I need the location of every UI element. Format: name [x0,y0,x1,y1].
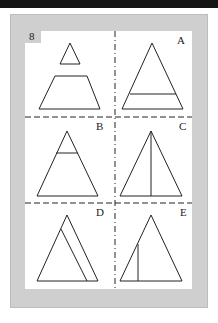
option-a-triangle [122,43,183,109]
option-c-label[interactable]: C [179,120,186,132]
option-e-triangle [120,215,182,281]
option-d-label[interactable]: D [96,206,104,218]
option-b-triangle [37,131,98,196]
option-d-triangle [37,215,98,281]
option-a-label[interactable]: A [177,34,185,46]
question-small-triangle [60,43,80,64]
option-b-label[interactable]: B [96,120,103,132]
option-e-label[interactable]: E [180,206,187,218]
question-trapezoid [39,76,100,109]
puzzle-figures [0,0,218,323]
